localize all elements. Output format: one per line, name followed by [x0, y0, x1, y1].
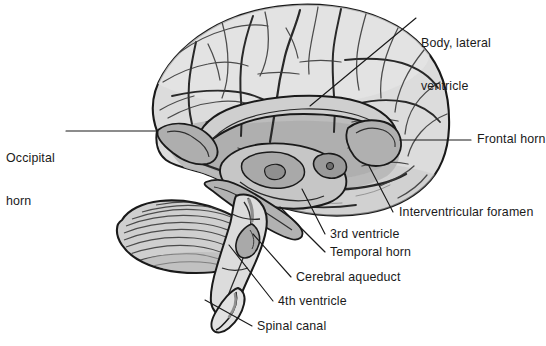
spinal-canal-label: Spinal canal [257, 320, 326, 334]
occipital-horn-label-line1: Occipital [6, 151, 55, 165]
occipital-horn-label-line2: horn [6, 194, 55, 208]
interventricular-foramen-group [314, 154, 347, 179]
frontal-horn-label: Frontal horn [477, 133, 546, 147]
cerebrum-highlight [130, 0, 430, 107]
interventricular-foramen-dot [326, 162, 333, 169]
cerebral-aqueduct-label: Cerebral aqueduct [296, 271, 401, 285]
massa-intermedia [265, 164, 286, 179]
body-lateral-ventricle-label-line2: ventricle [421, 79, 491, 93]
occipital-horn-label: Occipital horn [6, 122, 55, 237]
third-ventricle-label: 3rd ventricle [330, 228, 399, 242]
temporal-horn-label: Temporal horn [330, 246, 411, 260]
body-lateral-ventricle-label-line1: Body, lateral [421, 36, 491, 50]
body-lateral-ventricle-label: Body, lateral ventricle [421, 7, 491, 122]
interventricular-foramen-label: Interventricular foramen [399, 206, 533, 220]
fourth-ventricle-label: 4th ventricle [278, 295, 347, 309]
